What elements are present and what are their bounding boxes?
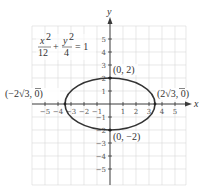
- svg-text:12: 12: [38, 47, 48, 58]
- ellipse-graph: −5 −4 −3 −2 −1 1 2 3 4 5 5 4 3 2 1 −1 −2…: [0, 0, 206, 194]
- svg-text:(2√3, 0): (2√3, 0): [157, 88, 189, 100]
- label-left-vertex: (−2√3, 0): [5, 88, 43, 100]
- x-tick-labels: −5 −4 −3 −2 −1 1 2 3 4 5: [40, 108, 177, 116]
- svg-text:5: 5: [102, 36, 106, 44]
- x-axis-arrow-icon: [185, 102, 192, 107]
- svg-text:−3: −3: [96, 140, 106, 148]
- label-bottom-vertex: (0, −2): [113, 131, 140, 143]
- svg-text:4: 4: [64, 47, 69, 58]
- svg-text:−5: −5: [40, 108, 50, 116]
- y-axis-label: y: [106, 6, 112, 17]
- svg-text:+: +: [53, 41, 59, 52]
- svg-text:−4: −4: [53, 108, 64, 116]
- svg-text:2: 2: [69, 31, 74, 42]
- svg-text:−1: −1: [96, 114, 106, 122]
- ellipse-equation: x 2 12 + y 2 4 = 1: [36, 31, 96, 60]
- svg-text:−2: −2: [79, 108, 89, 116]
- label-right-vertex: (2√3, 0): [157, 88, 189, 100]
- svg-text:1: 1: [121, 108, 125, 116]
- svg-text:1: 1: [102, 88, 106, 96]
- svg-text:= 1: = 1: [75, 41, 88, 52]
- svg-text:(−2√3, 0): (−2√3, 0): [5, 88, 43, 100]
- y-axis-arrow-icon: [108, 17, 113, 24]
- point-left: [64, 103, 67, 106]
- svg-text:4: 4: [102, 49, 107, 57]
- svg-text:2: 2: [46, 31, 51, 42]
- svg-text:−5: −5: [96, 166, 106, 174]
- point-top: [108, 76, 111, 79]
- svg-text:−4: −4: [96, 153, 107, 161]
- svg-text:4: 4: [160, 108, 165, 116]
- svg-text:3: 3: [102, 62, 106, 70]
- svg-text:y: y: [62, 35, 68, 46]
- label-top-vertex: (0, 2): [113, 64, 135, 76]
- point-bottom: [108, 128, 111, 131]
- svg-text:x: x: [39, 35, 45, 46]
- point-right: [154, 103, 157, 106]
- svg-text:2: 2: [134, 108, 138, 116]
- svg-text:5: 5: [173, 108, 177, 116]
